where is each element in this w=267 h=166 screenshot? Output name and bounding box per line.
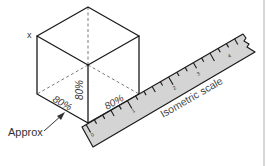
approx-annotation: Approx [8,112,65,138]
label-left-80: 80% [51,93,74,113]
approx-label: Approx [8,126,43,138]
ruler-body [82,34,255,147]
isometric-ruler: 0 1 2 3 4 [82,34,255,147]
label-vertical-80: 80% [74,80,85,100]
isometric-cube-diagram: x 80% 80% 80% Approx [0,0,267,166]
vertex-label: x [27,30,32,40]
hidden-edge-right [88,65,139,94]
